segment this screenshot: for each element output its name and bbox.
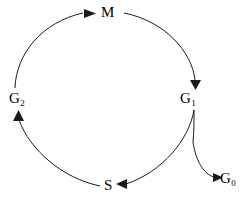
node-label-g2: G2: [9, 91, 24, 108]
arrowhead-into-m: [84, 9, 96, 18]
node-label-g1: G1: [180, 91, 195, 108]
node-label-g0-sub: 0: [231, 178, 236, 188]
node-label-s-base: S: [104, 177, 112, 193]
node-label-m: M: [101, 5, 114, 22]
node-label-s: S: [104, 178, 112, 195]
node-label-g1-base: G: [180, 90, 191, 106]
node-label-g2-base: G: [9, 90, 20, 106]
node-label-g0-base: G: [220, 170, 231, 186]
edge-m-to-g1: [124, 13, 195, 80]
arrowhead-into-g1: [190, 80, 201, 90]
edge-g2-to-m: [15, 13, 83, 88]
node-label-g2-sub: 2: [20, 98, 25, 108]
node-label-g1-sub: 1: [191, 98, 196, 108]
edge-g1-to-s: [126, 110, 194, 184]
edge-s-to-g2: [19, 120, 100, 186]
arrowhead-into-g2: [13, 110, 24, 121]
node-label-g0: G0: [220, 171, 235, 188]
cell-cycle-diagram: M G1 S G2 G0: [0, 0, 249, 208]
cycle-arcs-graphic: [0, 0, 249, 208]
arrowhead-into-s: [116, 179, 127, 189]
edge-g1-to-g0: [193, 142, 214, 177]
node-label-m-base: M: [101, 4, 114, 20]
